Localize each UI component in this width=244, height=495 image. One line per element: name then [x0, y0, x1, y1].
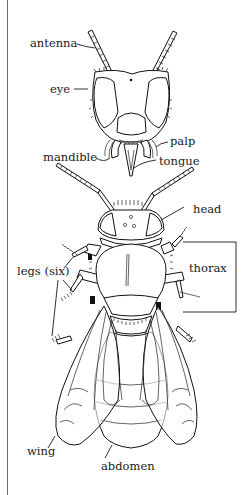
antenna-dorsal-left: [56, 163, 116, 214]
label-tongue: tongue: [159, 154, 200, 168]
leader-antenna: [77, 44, 95, 48]
label-thorax: thorax: [189, 261, 227, 275]
leader-abdomen: [105, 445, 112, 458]
label-antenna: antenna: [30, 36, 78, 50]
label-eye: eye: [50, 82, 70, 96]
leader-legs-2: [63, 280, 72, 290]
leader-mandible: [96, 158, 110, 161]
thorax-bracket: [183, 242, 236, 312]
tongue: [124, 144, 138, 176]
clypeus: [117, 113, 146, 135]
leg-hind-right: [176, 326, 196, 342]
leader-head: [161, 207, 184, 220]
body-dorsal-view: [52, 163, 200, 448]
leader-tongue: [134, 160, 156, 168]
insect-anatomy-diagram: antenna eye palp mandible tongue head le…: [0, 0, 244, 495]
label-legs: legs (six): [17, 264, 69, 278]
antenna-dorsal-right: [140, 167, 194, 214]
label-wing: wing: [27, 444, 56, 458]
label-head: head: [193, 202, 222, 216]
leader-palp: [156, 142, 168, 147]
leader-legs-3: [52, 280, 58, 336]
label-abdomen: abdomen: [101, 459, 155, 473]
label-mandible: mandible: [43, 150, 97, 164]
leg-front-left: [62, 244, 101, 257]
leg-hind-left: [52, 334, 72, 344]
label-palp: palp: [170, 134, 195, 148]
leg-front-right: [161, 227, 187, 254]
